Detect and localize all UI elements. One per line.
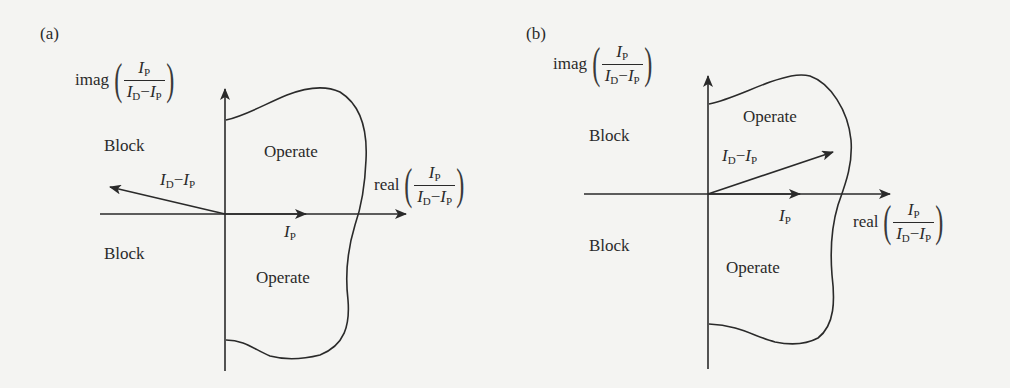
left-paren: (: [114, 58, 122, 102]
panel-a-block-region-bottom: Block: [104, 244, 145, 264]
panel-a-imag-axis-label: imag ( IP ID−IP ): [75, 58, 177, 102]
ratio-fraction: IP ID−IP: [896, 200, 931, 244]
fraction-denominator: ID−IP: [605, 65, 640, 86]
fraction-denominator: ID−IP: [896, 223, 931, 244]
panel-b-block-region-bottom: Block: [589, 236, 630, 256]
panel-a-operate-boundary: [226, 88, 366, 359]
panel-a-graphics: [100, 88, 406, 371]
panel-b-imag-axis-label: imag ( IP ID−IP ): [553, 42, 655, 86]
panel-b-operate-region-top: Operate: [743, 107, 797, 127]
real-function-label: real: [853, 212, 878, 232]
panel-a-ip-label: IP: [284, 222, 296, 242]
right-paren: ): [935, 200, 943, 244]
ratio-fraction: IP ID−IP: [417, 163, 452, 207]
right-paren: ): [456, 163, 464, 207]
panel-b-graphics: [584, 75, 890, 369]
panel-b-ip-label: IP: [779, 206, 791, 226]
imag-function-label: imag: [75, 70, 109, 90]
left-paren: (: [884, 200, 892, 244]
panel-a-id-minus-ip-label: ID−IP: [160, 170, 195, 190]
fraction-numerator: IP: [893, 200, 934, 223]
panel-b-block-region-top: Block: [589, 126, 630, 146]
imag-function-label: imag: [553, 54, 587, 74]
panel-a-block-region-top: Block: [104, 136, 145, 156]
panel-b-operate-region-bottom: Operate: [726, 258, 780, 278]
ratio-fraction: IP ID−IP: [605, 42, 640, 86]
panel-a-label: (a): [40, 24, 59, 44]
right-paren: ): [644, 42, 652, 86]
panel-a-operate-region-bottom: Operate: [256, 268, 310, 288]
panel-b-id-minus-ip-label: ID−IP: [722, 146, 757, 166]
panel-a-operate-region-top: Operate: [264, 142, 318, 162]
ratio-fraction: IP ID−IP: [127, 58, 162, 102]
fraction-denominator: ID−IP: [127, 81, 162, 102]
left-paren: (: [592, 42, 600, 86]
panel-a-real-axis-label: real ( IP ID−IP ): [374, 163, 468, 207]
real-function-label: real: [374, 175, 399, 195]
right-paren: ): [166, 58, 174, 102]
fraction-numerator: IP: [414, 163, 455, 186]
panel-b-real-axis-label: real ( IP ID−IP ): [853, 200, 947, 244]
panel-a-id-minus-ip-vector: [110, 187, 225, 214]
left-paren: (: [405, 163, 413, 207]
fraction-denominator: ID−IP: [417, 186, 452, 207]
fraction-numerator: IP: [602, 42, 643, 65]
panel-b-label: (b): [526, 24, 546, 44]
fraction-numerator: IP: [124, 58, 165, 81]
